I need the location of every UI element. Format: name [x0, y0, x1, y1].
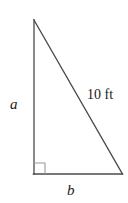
- label-vertical-leg-a: a: [10, 97, 18, 112]
- label-hypotenuse-measure: 10 ft: [87, 88, 113, 102]
- label-horizontal-leg-b: b: [67, 183, 75, 198]
- figure-canvas: a b 10 ft: [0, 0, 128, 203]
- right-angle-square-icon: [34, 163, 45, 174]
